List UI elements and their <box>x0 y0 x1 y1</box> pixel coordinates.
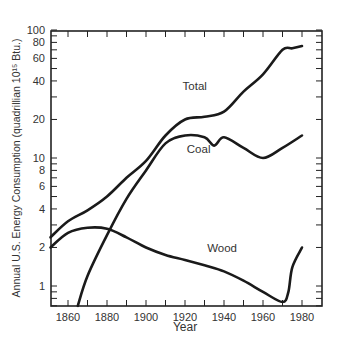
y-tick-label: 10 <box>33 152 45 164</box>
x-tick-label: 1860 <box>56 311 80 323</box>
y-tick-label: 4 <box>39 203 45 215</box>
y-axis-label: Annual U.S. Energy Consumption (quadrill… <box>10 39 22 298</box>
y-tick-label: 40 <box>33 75 45 87</box>
x-tick-label: 1880 <box>95 311 119 323</box>
energy-consumption-chart: 1246810204060801001860188019001920194019… <box>0 0 338 348</box>
y-tick-label: 8 <box>39 164 45 176</box>
series-label-total: Total <box>183 80 207 92</box>
series-line-wood <box>51 227 303 302</box>
y-tick-label: 1 <box>39 280 45 292</box>
x-axis-label: Year <box>173 320 197 334</box>
series-lines <box>51 46 303 306</box>
series-label-coal: Coal <box>187 143 211 155</box>
y-tick-label: 60 <box>33 52 45 64</box>
y-tick-label: 6 <box>39 180 45 192</box>
axis-ticks: 1246810204060801001860188019001920194019… <box>27 24 322 323</box>
y-tick-label: 100 <box>27 24 45 36</box>
y-tick-label: 20 <box>33 113 45 125</box>
series-line-coal <box>78 135 302 306</box>
x-tick-label: 1980 <box>290 311 314 323</box>
y-tick-label: 80 <box>33 36 45 48</box>
x-tick-label: 1900 <box>134 311 158 323</box>
y-tick-label: 2 <box>39 241 45 253</box>
x-tick-label: 1960 <box>251 311 275 323</box>
series-label-wood: Wood <box>207 242 237 254</box>
x-tick-label: 1940 <box>212 311 236 323</box>
series-line-total <box>51 46 303 237</box>
